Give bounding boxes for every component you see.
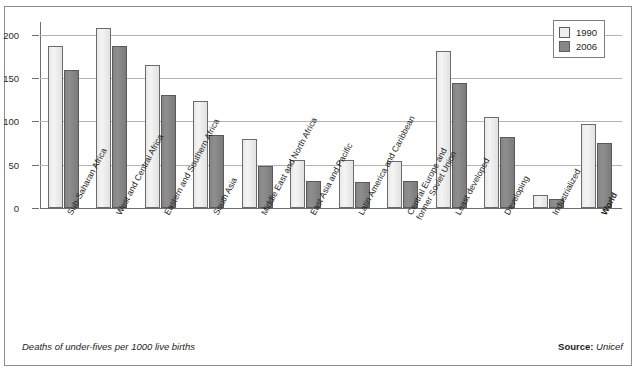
x-axis-labels: Sub-Saharan AfricaWest and Central Afric… [40, 212, 622, 332]
legend-label-2006: 2006 [576, 41, 597, 52]
y-tick-mark [32, 35, 39, 36]
chart-caption: Deaths of under-fives per 1000 live birt… [22, 341, 195, 352]
chart-source: Source: Unicef [558, 341, 623, 352]
y-tick-label: 0 [0, 203, 19, 214]
source-value: Unicef [596, 341, 623, 352]
y-tick-label: 200 [0, 29, 19, 40]
legend-item-1990[interactable]: 1990 [559, 25, 597, 39]
y-tick-label: 50 [0, 159, 19, 170]
chart-figure: Distribution 050100150200 Sub-Saharan Af… [0, 0, 637, 373]
bar-1990[interactable] [533, 195, 548, 208]
source-label: Source: [558, 341, 593, 352]
bar-1990[interactable] [48, 46, 63, 208]
chart-title: Distribution [0, 0, 637, 1]
legend-item-2006[interactable]: 2006 [559, 39, 597, 53]
chart-legend: 1990 2006 [553, 20, 605, 58]
bar-1990[interactable] [581, 124, 596, 208]
legend-swatch-1990 [559, 27, 570, 38]
bar-2006[interactable] [112, 46, 127, 208]
y-tick-mark [32, 165, 39, 166]
legend-swatch-2006 [559, 41, 570, 52]
y-tick-mark [32, 121, 39, 122]
y-tick-mark [32, 208, 39, 209]
y-tick-label: 100 [0, 116, 19, 127]
bar-2006[interactable] [64, 70, 79, 208]
y-tick-label: 150 [0, 73, 19, 84]
legend-label-1990: 1990 [576, 27, 597, 38]
bar-1990[interactable] [242, 139, 257, 208]
y-tick-mark [32, 78, 39, 79]
bar-1990[interactable] [96, 28, 111, 208]
